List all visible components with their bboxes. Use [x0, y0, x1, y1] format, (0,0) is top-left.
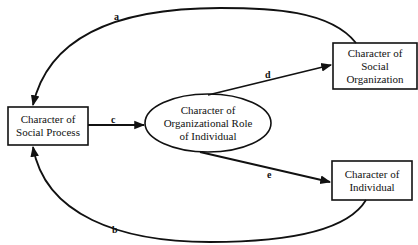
edge-a-arrow — [33, 8, 356, 105]
individual-line-2: Individual — [349, 181, 394, 194]
social-process-line-2: Social Process — [16, 126, 80, 139]
social-organization-line-3: Organization — [346, 73, 403, 86]
edge-b-arrow — [33, 147, 366, 242]
social-process-label: Character of Social Process — [8, 107, 88, 145]
edge-e-label: e — [267, 170, 271, 180]
social-process-line-1: Character of — [21, 113, 76, 126]
edge-d-label: d — [265, 70, 271, 80]
social-organization-label: Character of Social Organization — [333, 43, 417, 89]
social-organization-line-2: Social — [361, 60, 389, 73]
edge-a-label: a — [114, 12, 119, 22]
individual-label: Character of Individual — [332, 161, 412, 200]
organizational-role-line-3: of Individual — [179, 130, 236, 143]
organizational-role-line-2: Organizational Role — [164, 117, 253, 130]
social-organization-line-1: Character of — [348, 47, 403, 60]
individual-line-1: Character of — [345, 168, 400, 181]
organizational-role-line-1: Character of — [181, 104, 236, 117]
edge-c-label: c — [111, 115, 115, 125]
organizational-role-label: Character of Organizational Role of Indi… — [145, 94, 271, 152]
edge-b-label: b — [112, 225, 118, 235]
edge-e-arrow — [200, 152, 330, 182]
